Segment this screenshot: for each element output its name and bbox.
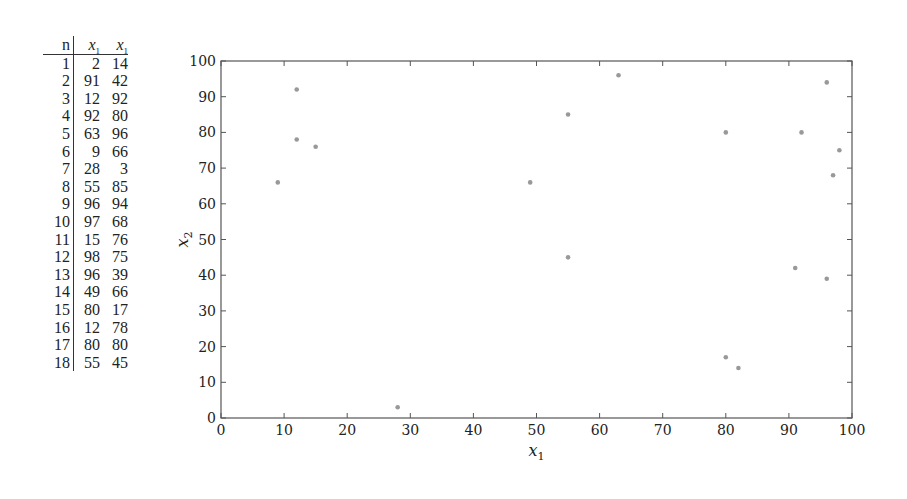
data-point [616, 73, 621, 78]
y-tick-label: 50 [198, 232, 216, 248]
data-point [275, 180, 280, 185]
y-tick-label: 20 [198, 339, 216, 355]
y-tick-label: 70 [198, 160, 216, 176]
y-tick-label: 100 [189, 53, 216, 69]
x-tick-label: 70 [654, 422, 672, 438]
x-tick-label: 30 [401, 422, 419, 438]
data-point [566, 255, 571, 260]
data-point [736, 366, 741, 371]
y-tick-label: 90 [198, 89, 216, 105]
x-tick-label: 100 [839, 422, 866, 438]
data-point [313, 144, 318, 149]
y-tick-label: 30 [198, 303, 216, 319]
data-point [395, 405, 400, 410]
data-point [566, 112, 571, 117]
data-point [294, 137, 299, 142]
y-axis-label: x2 [173, 231, 195, 247]
data-point [528, 180, 533, 185]
data-points [275, 73, 841, 410]
y-tick-label: 60 [198, 196, 216, 212]
x-tick-label: 10 [275, 422, 293, 438]
data-point [724, 130, 729, 135]
data-point [294, 87, 299, 92]
x-tick-label: 60 [591, 422, 609, 438]
plot-frame [221, 61, 852, 418]
y-tick-label: 40 [198, 267, 216, 283]
data-point [824, 80, 829, 85]
y-tick-label: 0 [207, 410, 216, 426]
x-tick-label: 90 [780, 422, 798, 438]
x-axis-label: x1 [528, 441, 544, 463]
data-point [799, 130, 804, 135]
x-tick-label: 50 [528, 422, 546, 438]
x-tick-label: 80 [717, 422, 735, 438]
x-tick-label: 0 [217, 422, 226, 438]
y-tick-label: 80 [198, 124, 216, 140]
data-point [837, 148, 842, 153]
data-point [831, 173, 836, 178]
data-point [724, 355, 729, 360]
scatter-chart: 0102030405060708090100010203040506070809… [0, 0, 907, 499]
x-tick-label: 20 [338, 422, 356, 438]
chart-axes: 0102030405060708090100010203040506070809… [173, 53, 865, 463]
y-tick-label: 10 [198, 374, 216, 390]
data-point [824, 276, 829, 281]
data-point [793, 266, 798, 271]
x-tick-label: 40 [464, 422, 482, 438]
